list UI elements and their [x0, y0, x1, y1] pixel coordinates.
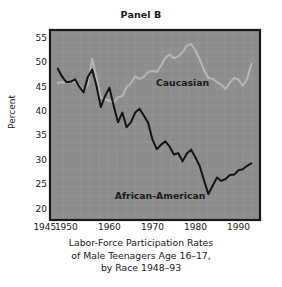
caption-line-3: by Race 1948–93: [0, 262, 282, 275]
caption-line-1: Labor-Force Participation Rates: [0, 237, 282, 250]
chart-figure: Panel B Percent 2025303540455055 1945195…: [0, 0, 282, 287]
caption-line-2: of Male Teenagers Age 16–17,: [0, 250, 282, 263]
series-label-caucasian: Caucasian: [156, 77, 209, 88]
series-label-african-american: African-American: [115, 190, 206, 201]
figure-caption: Labor-Force Participation Ratesof Male T…: [0, 237, 282, 275]
